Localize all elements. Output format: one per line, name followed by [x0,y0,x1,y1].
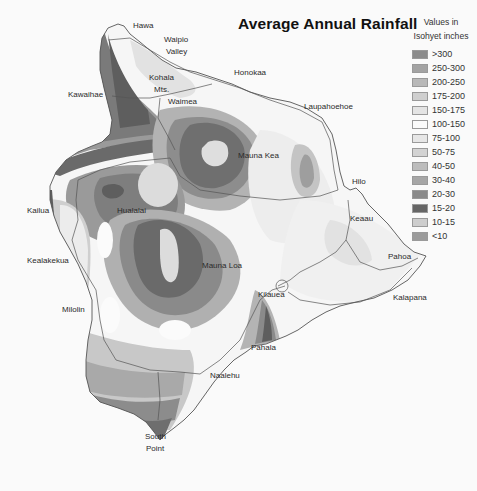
legend-item: 175-200 [406,89,476,103]
label-hawa: Hawa [133,21,153,31]
label-waimea: Waimea [168,97,197,107]
legend-swatch [412,50,428,59]
legend-swatch [412,176,428,185]
legend-swatch [412,218,428,227]
label-mauna-kea: Mauna Kea [238,151,279,161]
label-pahala: Pahala [251,343,276,353]
legend-item: 20-30 [406,187,476,201]
legend-item: 100-150 [406,117,476,131]
label-laupahoehoe: Laupahoehoe [304,102,353,112]
label-keaau: Keaau [350,214,373,224]
label-kailua: Kailua [27,206,49,216]
legend-items: >300250-300200-250175-200150-175100-1507… [406,47,476,243]
label-kohala-line1: Kohala [149,73,174,83]
legend-label: 40-50 [432,161,455,171]
label-waipio-line2: Valley [166,47,187,57]
legend-heading: Values in Isohyet inches [406,15,476,43]
legend-label: 75-100 [432,133,460,143]
label-kilauea: Kilauea [258,290,285,300]
label-honokaa: Honokaa [234,68,266,78]
rainfall-map: Average Annual Rainfall Values in Isohye… [0,0,477,491]
legend-label: 20-30 [432,189,455,199]
legend-item: 40-50 [406,159,476,173]
legend-swatch [412,148,428,157]
legend-label: <10 [432,231,447,241]
legend-label: 250-300 [432,63,465,73]
legend-label: 10-15 [432,217,455,227]
legend-label: 200-250 [432,77,465,87]
label-kealakekua: Kealakekua [27,256,69,266]
legend-label: 15-20 [432,203,455,213]
label-hilo: Hilo [352,177,366,187]
label-south-point-line2: Point [146,444,164,454]
legend-item: >300 [406,47,476,61]
legend-label: 175-200 [432,91,465,101]
legend-item: 150-175 [406,103,476,117]
legend-item: 250-300 [406,61,476,75]
legend-swatch [412,162,428,171]
legend-swatch [412,64,428,73]
legend-swatch [412,134,428,143]
legend-label: 100-150 [432,119,465,129]
legend-swatch [412,106,428,115]
legend-item: 75-100 [406,131,476,145]
label-hualalai: Hualalai [117,206,146,216]
label-kalapana: Kalapana [393,293,427,303]
legend-swatch [412,232,428,241]
label-kawaihae: Kawaihae [68,90,103,100]
legend-swatch [412,190,428,199]
label-kohala-line2: Mts. [154,85,169,95]
legend-item: 200-250 [406,75,476,89]
legend: Values in Isohyet inches >300250-300200-… [406,15,476,243]
label-mauna-loa: Mauna Loa [202,261,242,271]
legend-item: 30-40 [406,173,476,187]
legend-label: 50-75 [432,147,455,157]
label-milolin: Milolin [62,305,85,315]
map-title: Average Annual Rainfall [238,15,417,33]
legend-label: >300 [432,49,452,59]
legend-label: 150-175 [432,105,465,115]
legend-item: 50-75 [406,145,476,159]
label-waipio-line1: Waipio [164,35,188,45]
legend-swatch [412,92,428,101]
legend-item: 10-15 [406,215,476,229]
legend-item: <10 [406,229,476,243]
legend-heading-line1: Values in [406,15,476,29]
label-south-point-line1: South [145,432,166,442]
legend-swatch [412,120,428,129]
legend-label: 30-40 [432,175,455,185]
legend-item: 15-20 [406,201,476,215]
label-pahoa: Pahoa [388,252,411,262]
label-naalehu: Naalehu [210,371,240,381]
legend-swatch [412,78,428,87]
legend-swatch [412,204,428,213]
legend-heading-line2: Isohyet inches [406,29,476,43]
